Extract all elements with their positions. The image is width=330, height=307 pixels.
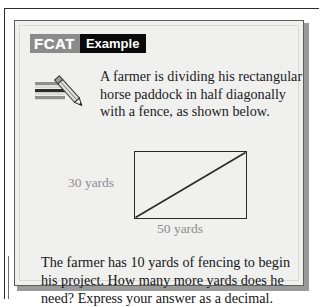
figure-height-label: 30 yards: [68, 175, 114, 191]
example-question-text: The farmer has 10 yards of fencing to be…: [41, 253, 291, 307]
page-rule-left: [4, 8, 5, 299]
paddock-diagonal-fence-line: [134, 151, 247, 219]
figure-width-label: 50 yards: [157, 221, 203, 237]
page-rule-left-secondary: [8, 256, 9, 299]
fcat-badge: FCAT: [30, 34, 80, 53]
page-rule-top: [4, 8, 319, 9]
paddock-figure: 30 yards 50 yards: [29, 125, 291, 243]
example-badge-row: FCAT Example: [30, 34, 146, 53]
example-badge: Example: [80, 34, 146, 53]
pencil-writing-on-lines-icon: [33, 61, 87, 107]
example-panel: FCAT Example: [14, 20, 304, 286]
example-intro-text: A farmer is dividing his rectangular hor…: [100, 68, 306, 121]
